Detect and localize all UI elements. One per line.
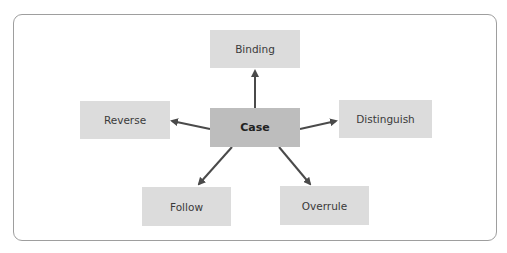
arrow-to-distinguish xyxy=(300,121,336,129)
node-overrule-label: Overrule xyxy=(302,200,347,212)
node-reverse: Reverse xyxy=(80,101,170,139)
node-overrule: Overrule xyxy=(280,186,369,225)
node-binding: Binding xyxy=(210,30,300,68)
node-distinguish: Distinguish xyxy=(339,100,432,138)
node-binding-label: Binding xyxy=(235,43,275,55)
node-follow: Follow xyxy=(142,187,231,226)
node-reverse-label: Reverse xyxy=(104,114,146,126)
node-case: Case xyxy=(210,108,300,147)
node-case-label: Case xyxy=(240,121,270,134)
node-follow-label: Follow xyxy=(170,201,203,213)
node-distinguish-label: Distinguish xyxy=(356,113,415,125)
arrow-to-overrule xyxy=(279,147,310,184)
arrow-to-reverse xyxy=(172,121,210,129)
arrow-to-follow xyxy=(199,147,232,184)
